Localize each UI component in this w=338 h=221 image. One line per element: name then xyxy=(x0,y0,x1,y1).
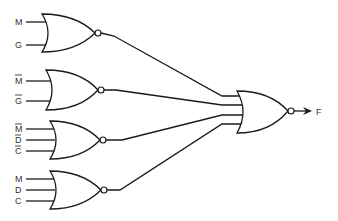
input-label-g4-m: M xyxy=(15,174,23,184)
output-label-f: F xyxy=(316,107,322,117)
nor-gate-3: M D C xyxy=(15,121,106,159)
input-label-g3-m-bar: M xyxy=(15,124,23,134)
input-label-g2-g-bar: G xyxy=(15,96,22,106)
input-label-g1-m: M xyxy=(15,17,23,27)
input-label-g2-m-bar: M xyxy=(15,76,23,86)
nor-gate-4: M D C xyxy=(15,171,107,209)
input-label-g4-c: C xyxy=(15,196,22,206)
input-label-g4-d: D xyxy=(15,185,22,195)
nor-gate-2: M G xyxy=(15,70,104,110)
nor-gate-final: F xyxy=(237,91,322,133)
input-label-g3-d-bar: D xyxy=(15,135,22,145)
input-label-g3-c-bar: C xyxy=(15,146,22,156)
nor-gate-1: M G xyxy=(15,14,101,52)
logic-circuit-diagram: M G M G M D C M D C xyxy=(0,0,338,221)
input-label-g1-g: G xyxy=(15,40,22,50)
interconnect-wires xyxy=(101,33,243,190)
